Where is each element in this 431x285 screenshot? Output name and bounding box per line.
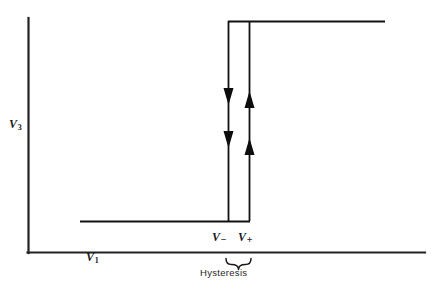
threshold-label-lower: V− (212, 231, 227, 243)
up-arrow-icon-upper (245, 91, 255, 108)
y-axis-label-subscript: 3 (17, 123, 22, 132)
hysteresis-caption: Hysteresis (200, 268, 247, 278)
y-axis-label: V3 (9, 118, 22, 130)
threshold-lower-subscript: − (220, 234, 226, 245)
x-axis-label-subscript: 1 (94, 256, 99, 265)
down-arrow-icon-lower (224, 131, 234, 148)
threshold-upper-subscript: + (246, 234, 252, 245)
down-arrow-icon-upper (224, 88, 234, 105)
hysteresis-figure: V3 V1 V− V+ Hysteresis (0, 0, 431, 285)
threshold-lower-symbol: V (212, 230, 220, 244)
x-axis-label: V1 (86, 251, 99, 263)
threshold-label-upper: V+ (238, 231, 253, 243)
threshold-upper-symbol: V (238, 230, 246, 244)
up-arrow-icon-lower (245, 138, 255, 155)
x-axis-label-symbol: V (86, 250, 94, 264)
y-axis-label-symbol: V (9, 117, 17, 131)
